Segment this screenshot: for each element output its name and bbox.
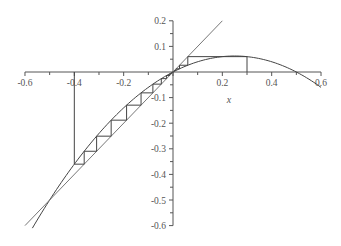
x-tick-label: 0.6 xyxy=(315,78,327,88)
diagonal-line xyxy=(25,21,222,226)
y-tick-label: -0.3 xyxy=(151,144,166,154)
x-tick-label: -0.6 xyxy=(17,78,32,88)
x-tick-label: -0.2 xyxy=(116,78,131,88)
y-tick-label: -0.1 xyxy=(151,93,166,103)
cobweb-plot: -0.6-0.4-0.20.20.40.6 0.20.1-0.1-0.2-0.3… xyxy=(0,0,341,246)
x-tick-label: 0.4 xyxy=(266,78,278,88)
x-axis-title: x xyxy=(226,94,232,105)
y-tick-label: -0.4 xyxy=(151,170,166,180)
x-tick-label: 0.2 xyxy=(216,78,228,88)
y-tick-label: 0.1 xyxy=(154,42,166,52)
y-tick-label: -0.2 xyxy=(151,119,166,129)
x-axis: -0.6-0.4-0.20.20.40.6 xyxy=(17,72,327,88)
y-tick-label: -0.5 xyxy=(151,196,166,206)
y-tick-label: -0.6 xyxy=(151,221,166,231)
y-tick-label: 0.2 xyxy=(154,16,166,26)
y-axis: 0.20.1-0.1-0.2-0.3-0.4-0.5-0.6 xyxy=(151,16,173,231)
